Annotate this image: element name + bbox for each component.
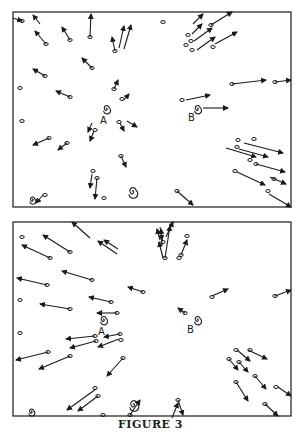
velocity-arrow-icon xyxy=(67,389,96,410)
galaxy-icon xyxy=(274,386,278,389)
velocity-arrow-icon xyxy=(248,350,267,359)
velocity-arrow-icon xyxy=(121,156,126,167)
galaxy-icon xyxy=(248,159,252,162)
velocity-arrow-icon xyxy=(269,194,291,207)
panel-frame xyxy=(13,222,291,416)
bottom-panel: AB xyxy=(13,222,291,418)
velocity-arrow-icon xyxy=(112,37,115,51)
velocity-arrow-icon xyxy=(255,376,266,389)
galaxy-icon xyxy=(43,194,47,197)
velocity-arrow-icon xyxy=(89,297,111,302)
galaxy-icon xyxy=(189,40,193,43)
top-panel: AB xyxy=(13,12,291,207)
spiral-galaxy-icon xyxy=(29,409,35,416)
velocity-arrow-icon xyxy=(212,289,228,296)
velocity-arrow-icon xyxy=(78,396,98,411)
galaxy-icon xyxy=(18,332,22,335)
galaxy-icon xyxy=(190,49,194,52)
velocity-arrow-icon xyxy=(275,290,291,296)
velocity-arrow-icon xyxy=(178,400,183,415)
galaxy-icon xyxy=(266,190,270,193)
galaxy-icon xyxy=(252,138,256,141)
galaxy-icon xyxy=(101,414,105,417)
velocity-arrow-icon xyxy=(33,138,49,145)
velocity-arrow-icon xyxy=(128,287,143,292)
velocity-arrow-icon xyxy=(16,352,48,360)
galaxy-icon xyxy=(20,236,24,239)
velocity-arrow-icon xyxy=(104,334,120,337)
spiral-galaxy-icon xyxy=(30,197,36,204)
velocity-arrow-icon xyxy=(43,235,70,252)
velocity-arrow-icon xyxy=(178,308,185,313)
point-label-b: B xyxy=(188,112,195,123)
velocity-arrow-icon xyxy=(192,24,202,34)
galaxy-icon xyxy=(235,146,239,149)
velocity-arrow-icon xyxy=(82,58,92,68)
galaxy-icon xyxy=(186,34,190,37)
galaxy-icon xyxy=(20,120,24,123)
spiral-galaxy-icon xyxy=(130,401,139,412)
velocity-arrow-icon xyxy=(22,245,50,258)
galaxy-icon xyxy=(91,170,95,173)
spiral-galaxy-icon xyxy=(129,188,138,199)
point-label-b: B xyxy=(187,324,194,335)
velocity-arrow-icon xyxy=(40,304,70,309)
velocity-arrow-icon xyxy=(104,240,118,249)
velocity-arrow-icon xyxy=(127,121,137,127)
spiral-galaxy-icon xyxy=(195,317,202,325)
velocity-arrow-icon xyxy=(35,31,46,44)
velocity-arrow-icon xyxy=(278,387,291,396)
velocity-arrow-icon xyxy=(107,358,123,376)
galaxy-icon xyxy=(119,339,123,342)
velocity-arrow-icon xyxy=(62,27,70,40)
velocity-arrow-icon xyxy=(36,195,43,203)
velocity-arrow-icon xyxy=(66,336,95,339)
velocity-arrow-icon xyxy=(177,191,193,205)
velocity-arrow-icon xyxy=(119,26,124,48)
velocity-arrow-icon xyxy=(17,278,47,285)
velocity-arrow-icon xyxy=(120,123,124,131)
velocity-arrow-icon xyxy=(95,178,97,199)
velocity-arrow-icon xyxy=(70,341,96,348)
velocity-arrow-icon xyxy=(237,172,265,185)
spiral-galaxy-icon xyxy=(101,317,108,325)
galaxy-icon xyxy=(185,235,189,238)
velocity-arrow-icon xyxy=(58,143,67,150)
velocity-arrow-icon xyxy=(229,359,238,370)
galaxy-icon xyxy=(233,170,237,173)
velocity-arrow-icon xyxy=(90,174,92,188)
galaxy-icon xyxy=(180,99,184,102)
galaxy-icon xyxy=(120,98,124,101)
velocity-arrow-icon xyxy=(33,15,40,24)
velocity-arrow-icon xyxy=(256,164,285,172)
velocity-arrow-icon xyxy=(72,222,90,238)
point-label-a: A xyxy=(100,115,107,126)
velocity-arrow-icon xyxy=(56,91,70,97)
velocity-arrow-icon xyxy=(211,12,232,25)
velocity-arrow-icon xyxy=(90,14,91,37)
velocity-arrow-icon xyxy=(124,94,129,100)
galaxy-icon xyxy=(236,139,240,142)
figure-canvas: AB AB xyxy=(0,0,301,436)
velocity-arrow-icon xyxy=(62,271,92,280)
velocity-arrow-icon xyxy=(265,404,278,416)
velocity-arrow-icon xyxy=(215,32,237,44)
galaxy-icon xyxy=(184,44,188,47)
velocity-arrow-icon xyxy=(186,95,210,100)
velocity-arrow-icon xyxy=(193,14,203,24)
velocity-arrow-icon xyxy=(98,339,119,347)
velocity-arrow-icon xyxy=(124,25,131,49)
velocity-arrow-icon xyxy=(237,350,250,361)
spiral-galaxy-icon xyxy=(195,106,202,114)
galaxy-icon xyxy=(211,46,215,49)
galaxy-icon xyxy=(102,197,106,200)
velocity-arrow-icon xyxy=(166,222,173,237)
figure-caption: FIGURE 3 xyxy=(0,418,301,431)
velocity-arrow-icon xyxy=(181,240,187,255)
spiral-galaxy-icon xyxy=(104,106,111,114)
velocity-arrow-icon xyxy=(88,123,92,132)
galaxy-icon xyxy=(161,21,165,24)
velocity-arrow-icon xyxy=(232,80,266,84)
velocity-arrow-icon xyxy=(39,356,70,369)
velocity-arrow-icon xyxy=(90,131,94,141)
